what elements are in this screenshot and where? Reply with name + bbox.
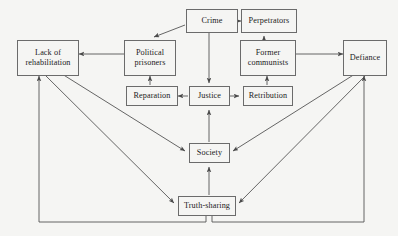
node-society[interactable]: Society [189, 143, 230, 163]
node-truth-sharing[interactable]: Truth-sharing [178, 196, 236, 216]
node-former-communists[interactable]: Formercommunists [240, 40, 296, 76]
node-lack-of-rehabilitation-label: Lack ofrehabilitation [23, 48, 72, 69]
node-crime-label: Crime [200, 16, 225, 27]
node-reparation[interactable]: Reparation [126, 86, 178, 106]
node-defiance-label: Defiance [348, 53, 382, 64]
node-truth-sharing-label: Truth-sharing [182, 201, 232, 212]
node-justice-label: Justice [196, 91, 223, 102]
node-political-prisoners-label: Politicalprisoners [133, 48, 168, 69]
flow-diagram: Crime Perpetrators Lack ofrehabilitation… [0, 0, 398, 236]
node-perpetrators[interactable]: Perpetrators [241, 9, 297, 33]
node-political-prisoners[interactable]: Politicalprisoners [124, 40, 176, 76]
node-perpetrators-label: Perpetrators [247, 16, 292, 27]
edge-crime-to-political-prisoners [154, 25, 185, 37]
node-society-label: Society [195, 148, 224, 159]
node-defiance[interactable]: Defiance [343, 40, 387, 76]
node-retribution[interactable]: Retribution [243, 86, 293, 106]
node-former-communists-label: Formercommunists [246, 48, 291, 69]
node-crime[interactable]: Crime [186, 9, 238, 33]
node-lack-of-rehabilitation[interactable]: Lack ofrehabilitation [17, 40, 79, 76]
node-justice[interactable]: Justice [189, 86, 230, 106]
node-reparation-label: Reparation [132, 91, 173, 102]
node-retribution-label: Retribution [247, 91, 289, 102]
